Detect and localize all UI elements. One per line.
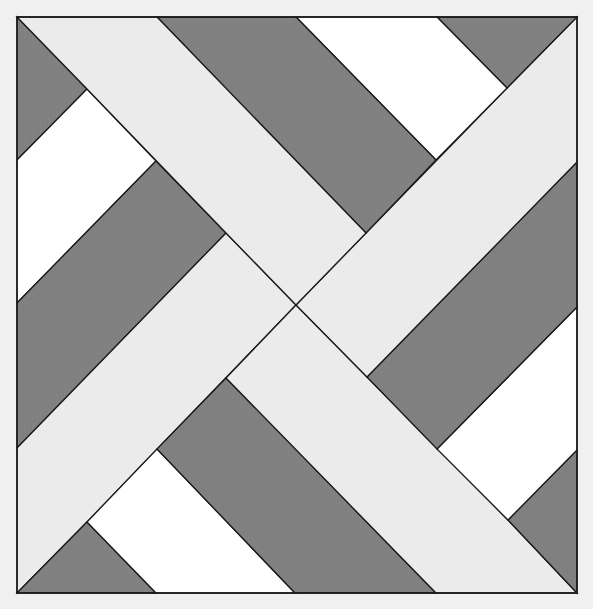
quilt-block-diagram (0, 0, 593, 609)
quilt-pieces (17, 17, 577, 593)
